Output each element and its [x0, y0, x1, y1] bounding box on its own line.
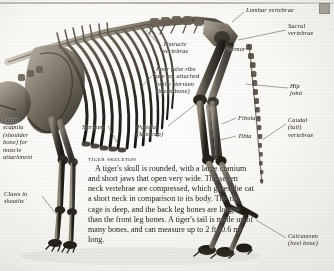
label-sacral-vertebrae: Sacral vertebrae [288, 22, 313, 37]
label-calcaneum: Calcaneum (heel bone) [288, 232, 318, 247]
caption-block: TIGER SKELETON A tiger's skull is rounde… [88, 154, 254, 245]
caption-heading: TIGER SKELETON [88, 154, 254, 163]
label-fibula: Fibula [238, 114, 256, 121]
label-sternum: Sternum [82, 123, 104, 130]
corner-marker [319, 3, 330, 14]
top-rule [0, 2, 334, 4]
label-femur: Femur [228, 45, 246, 52]
label-patella: Patella (kneecap) [137, 123, 163, 138]
figure-page: Lumbar vertebrae Sacral vertebrae Hip jo… [0, 0, 334, 271]
label-lumbar-vertebrae: Lumbar vertebrae [246, 6, 294, 13]
label-claws: Claws in sheaths [4, 190, 27, 205]
caption-body: A tiger's skull is rounded, with a large… [88, 164, 254, 245]
label-tibia: Tibia [238, 132, 252, 139]
label-scapula: Large scapula (shoulder bone) for muscle… [3, 116, 32, 160]
label-caudal-vertebrae: Caudal (tail) vertebrae [288, 116, 313, 138]
label-hip-joint: Hip joint [290, 82, 302, 97]
label-thoracic-vertebrae: Thoracic vertebrae [163, 40, 188, 55]
label-false-ribs: Four false ribs are not attached to the … [156, 65, 199, 95]
